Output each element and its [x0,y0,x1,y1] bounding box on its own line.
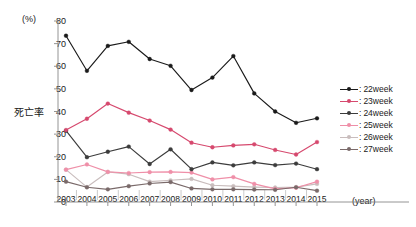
data-point [190,88,194,92]
data-point [211,145,215,149]
legend-colon: : [359,132,361,143]
data-point [64,180,68,184]
legend-label: 22week [363,84,392,95]
data-point [148,57,152,61]
legend-item-24week[interactable]: :24week [340,108,393,119]
legend-label: 23week [363,96,392,107]
legend-marker-icon [340,97,358,106]
data-point [85,155,89,159]
data-point [127,111,131,115]
legend-item-22week[interactable]: :22week [340,84,393,95]
legend-marker-icon [340,85,358,94]
data-point [106,102,110,106]
data-point [169,180,173,184]
data-point [315,180,319,184]
data-point [190,141,194,145]
data-point [190,167,194,171]
data-point [315,189,319,193]
data-point [85,185,89,189]
data-point [294,162,298,166]
data-point [231,144,235,148]
series-line [66,104,317,155]
legend: :22week:23week:24week:25week:26week:27we… [340,84,393,155]
legend-label: 25week [363,120,392,131]
data-point [252,92,256,96]
data-point [211,187,215,191]
data-point [231,54,235,58]
data-point [169,64,173,68]
legend-label: 26week [363,132,392,143]
data-point [169,147,173,151]
legend-item-27week[interactable]: :27week [340,144,393,155]
legend-item-25week[interactable]: :25week [340,120,393,131]
data-point [190,187,194,191]
data-point [315,116,319,120]
data-point [252,142,256,146]
legend-marker-icon [340,109,358,118]
data-point [231,187,235,191]
data-point [273,188,277,192]
data-point [148,170,152,174]
series-27week [64,180,319,193]
data-point [273,110,277,114]
data-point [85,163,89,167]
data-point [64,128,68,132]
series-24week [64,129,319,171]
series-22week [64,34,319,125]
data-point [85,117,89,121]
data-point [106,44,110,48]
data-point [315,167,319,171]
data-point [148,162,152,166]
legend-marker-icon [340,133,358,142]
data-point [190,177,194,181]
data-point [211,177,215,181]
data-point [294,121,298,125]
data-point [211,183,215,187]
data-point [148,182,152,186]
data-point [231,175,235,179]
data-point [315,140,319,144]
legend-colon: : [359,108,361,119]
data-point [252,188,256,192]
data-point [127,145,131,149]
legend-label: 27week [363,144,392,155]
series-line [66,131,317,169]
data-point [106,187,110,191]
data-point [252,182,256,186]
data-point [148,119,152,123]
legend-colon: : [359,120,361,131]
series-23week [64,102,319,157]
legend-colon: : [359,144,361,155]
data-point [127,40,131,44]
data-point [273,163,277,167]
legend-item-23week[interactable]: :23week [340,96,393,107]
data-point [85,69,89,73]
chart-container: (%) 死亡率 (year) 01020304050607080 2003200… [0,0,416,227]
data-point [169,170,173,174]
data-point [64,34,68,38]
data-point [211,161,215,165]
data-point [294,185,298,189]
data-point [169,128,173,132]
data-point [211,76,215,80]
data-point [127,184,131,188]
data-point [294,153,298,157]
legend-colon: : [359,84,361,95]
legend-marker-icon [340,121,358,130]
series-line [66,36,317,123]
legend-item-26week[interactable]: :26week [340,132,393,143]
data-point [106,150,110,154]
data-point [273,148,277,152]
legend-label: 24week [363,108,392,119]
data-point [127,171,131,175]
legend-colon: : [359,96,361,107]
data-point [64,168,68,172]
data-point [231,163,235,167]
data-point [252,161,256,165]
legend-marker-icon [340,145,358,154]
data-point [106,170,110,174]
